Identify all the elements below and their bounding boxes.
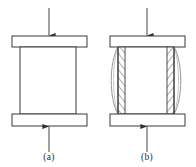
compression-test-figure: (a) [0,0,196,167]
panel-b: (b) [110,8,185,163]
panel-b-caption: (b) [141,152,153,163]
panel-b-bulge-right [174,47,181,114]
figure-canvas: (a) [0,0,196,167]
panel-a-top-platen [12,36,87,47]
panel-b-hatch-band-right [167,47,174,114]
panel-b-bottom-platen [110,114,185,126]
panel-b-bulge-left [111,47,118,114]
panel-a-bottom-platen [12,114,87,126]
panel-b-hatch-band-left [118,47,125,114]
panel-a-caption: (a) [43,152,54,163]
panel-b-top-platen [110,36,185,47]
panel-a: (a) [12,8,87,163]
panel-b-specimen [118,47,174,114]
panel-a-specimen [20,47,76,114]
